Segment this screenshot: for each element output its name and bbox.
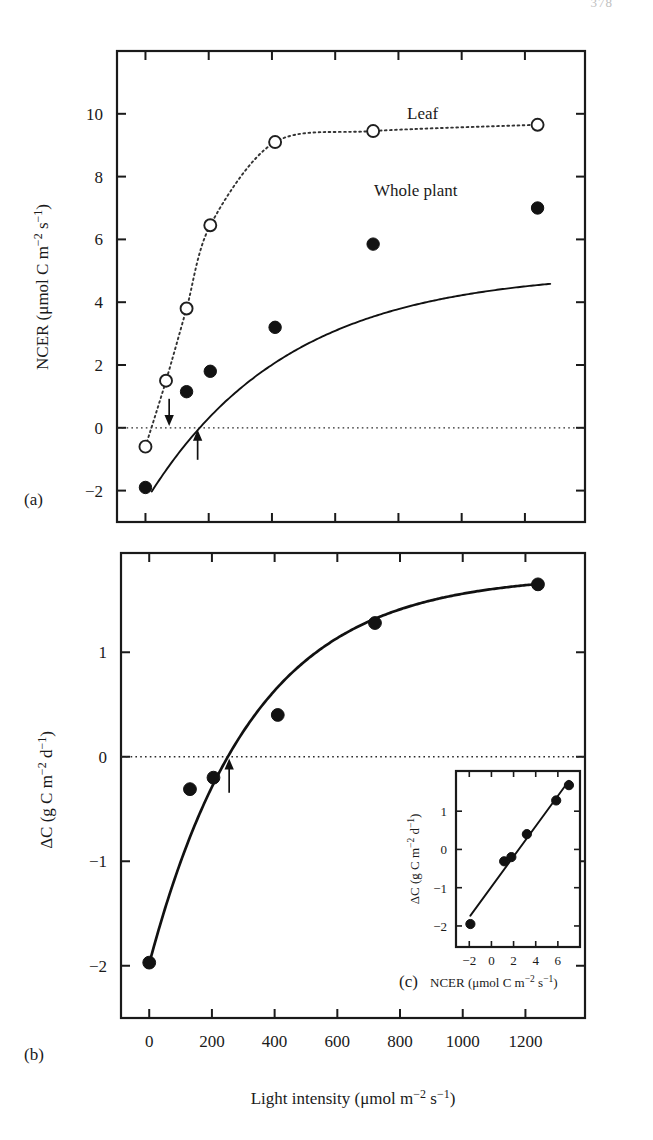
series-label-whole-plant: Whole plant: [374, 181, 458, 200]
panel-c-x-axis-title: NCER (μmol C m−2 s−1): [430, 974, 558, 990]
leaf-data-point: [532, 119, 544, 131]
leaf-data-point: [181, 302, 193, 314]
delta-c-data-point: [143, 956, 156, 969]
y-tick-label: 4: [95, 293, 104, 312]
leaf-data-point: [367, 125, 379, 137]
delta-c-data-point: [184, 783, 197, 796]
y-tick-label: 1: [441, 804, 448, 819]
inset-data-point: [466, 919, 475, 928]
y-tick-label: −2: [85, 482, 103, 501]
y-tick-label: 6: [95, 230, 104, 249]
leaf-compensation-point-arrow-icon-head: [166, 416, 173, 424]
y-tick-label: 0: [95, 419, 104, 438]
whole-plant-data-point: [139, 481, 151, 493]
y-tick-label: 10: [86, 105, 103, 124]
leaf-curve: [145, 125, 537, 447]
x-tick-label: 1000: [446, 1032, 480, 1051]
series-label-leaf: Leaf: [407, 104, 438, 123]
panel-b-annotation-arrow: [226, 761, 233, 793]
x-tick-label: −2: [462, 953, 476, 968]
panel-c-y-ticklabels: −2−101: [433, 804, 447, 934]
svg-text:NCER (μmol C m−2 s−1): NCER (μmol C m−2 s−1): [430, 974, 558, 990]
y-tick-label: −1: [433, 881, 447, 896]
y-tick-label: 0: [99, 748, 108, 767]
panel-c-background: [456, 771, 580, 947]
inset-data-point: [552, 796, 561, 805]
whole-plant-data-point: [531, 202, 543, 214]
svg-text:Light intensity (μmol m−2 s−1): Light intensity (μmol m−2 s−1): [251, 1087, 456, 1108]
panel-a-series-whole-plant: [139, 202, 550, 494]
panel-b-y-ticklabels: −2−101: [89, 643, 107, 975]
panel-b-y-axis-title: ΔC (g C m−2 d−1): [35, 731, 56, 849]
x-tick-label: 400: [262, 1032, 288, 1051]
svg-text:ΔC (g C m−2 d−1): ΔC (g C m−2 d−1): [406, 814, 422, 905]
x-tick-label: 600: [325, 1032, 351, 1051]
panel-c-label: (c): [399, 972, 418, 991]
whole-plant-data-point: [269, 321, 281, 333]
panel-a-y-ticklabels: −20246810: [85, 105, 104, 501]
x-tick-label: 2: [510, 953, 517, 968]
y-tick-label: −1: [89, 852, 107, 871]
x-tick-label: 800: [387, 1032, 413, 1051]
x-tick-label: 0: [488, 953, 495, 968]
x-tick-label: 1200: [508, 1032, 542, 1051]
inset-data-point: [564, 781, 573, 790]
figure-root: 378 −20246810 Leaf Whole plant (a) NCER …: [0, 0, 653, 1140]
inset-data-point: [522, 830, 531, 839]
panel-b-x-ticklabels: 020040060080010001200: [145, 1032, 542, 1051]
panel-a: −20246810 Leaf Whole plant (a) NCER (μmo…: [24, 51, 585, 522]
whole-plant-data-point: [367, 238, 379, 250]
leaf-data-point: [269, 136, 281, 148]
whole-plant-data-point: [180, 385, 192, 397]
panel-b-x-axis-title: Light intensity (μmol m−2 s−1): [251, 1087, 456, 1108]
panel-a-x-ticks: [145, 51, 524, 522]
x-tick-label: 4: [532, 953, 539, 968]
panel-a-y-axis-title: NCER (μmol C m−2 s−1): [31, 204, 52, 370]
panel-a-plot-frame: [117, 51, 585, 522]
panel-c-y-axis-title: ΔC (g C m−2 d−1): [406, 814, 422, 905]
leaf-data-point: [160, 375, 172, 387]
scientific-figure: −20246810 Leaf Whole plant (a) NCER (μmo…: [0, 0, 653, 1140]
x-tick-label: 6: [555, 953, 562, 968]
leaf-data-point: [139, 441, 151, 453]
y-tick-label: 2: [95, 356, 104, 375]
delta-c-data-point: [532, 578, 545, 591]
panel-b-label: (b): [24, 1045, 44, 1064]
y-tick-label: −2: [89, 957, 107, 976]
compensation-point-arrow-icon-head: [226, 761, 233, 769]
whole-plant-data-point: [204, 365, 216, 377]
x-tick-label: 200: [199, 1032, 225, 1051]
y-tick-label: 1: [99, 643, 108, 662]
whole-plant-curve: [152, 284, 550, 492]
panel-a-series-leaf: [139, 119, 543, 453]
panel-c-x-ticklabels: −20246: [462, 953, 561, 968]
delta-c-data-point: [369, 617, 382, 630]
y-tick-label: 0: [441, 842, 448, 857]
panel-c-inset: −2−101 −20246 (c) ΔC (g C m−2 d−1) NCER …: [399, 771, 580, 991]
x-tick-label: 0: [145, 1032, 154, 1051]
panel-a-label: (a): [24, 490, 43, 509]
svg-text:NCER (μmol C m−2 s−1): NCER (μmol C m−2 s−1): [31, 204, 52, 370]
delta-c-data-point: [271, 709, 284, 722]
page-number: 378: [591, 0, 614, 11]
y-tick-label: 8: [95, 168, 104, 187]
delta-c-data-point: [207, 771, 220, 784]
leaf-data-point: [204, 219, 216, 231]
panel-a-annotation-arrows: [166, 399, 201, 460]
svg-text:ΔC (g C m−2 d−1): ΔC (g C m−2 d−1): [35, 731, 56, 849]
inset-data-point: [507, 852, 516, 861]
y-tick-label: −2: [433, 919, 447, 934]
